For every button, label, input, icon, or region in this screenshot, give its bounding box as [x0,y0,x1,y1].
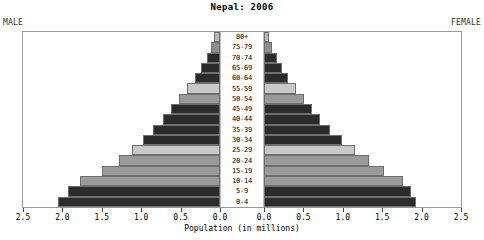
male-bar-cell [23,176,220,186]
male-bar [179,94,220,104]
female-bar-cell [264,104,461,114]
pyramid-row: 70-74 [23,53,461,63]
pyramid-row: 10-14 [23,176,461,186]
male-bar [163,114,220,124]
female-bar [264,42,272,52]
x-axis-tick [181,208,182,212]
pyramid-row: 0-4 [23,197,461,207]
female-side-label: FEMALE [451,18,481,27]
x-axis-tick [102,208,103,212]
male-bar [195,73,220,83]
male-bar-cell [23,135,220,145]
male-bar-cell [23,186,220,196]
x-axis-tick-label: 2.0 [414,213,428,222]
female-bar [264,83,296,93]
age-group-label: 10-14 [220,176,264,186]
male-bar-cell [23,32,220,42]
pyramid-row: 20-24 [23,155,461,165]
male-bar [207,53,220,63]
pyramid-row: 15-19 [23,166,461,176]
x-axis-tick [422,208,423,212]
female-bar [264,125,330,135]
age-group-label: 40-44 [220,114,264,124]
male-bar-cell [23,94,220,104]
female-bar [264,166,384,176]
male-bar [102,166,220,176]
male-bar [153,125,220,135]
female-bar [264,155,369,165]
female-bar-cell [264,125,461,135]
x-axis-tick [461,208,462,212]
male-bar-cell [23,83,220,93]
x-axis-tick-label: 1.0 [134,213,148,222]
female-bar-cell [264,63,461,73]
age-group-label: 55-59 [220,83,264,93]
male-bar-cell [23,104,220,114]
female-bar-cell [264,83,461,93]
x-axis-tick-label: 2.5 [454,213,468,222]
female-bar-cell [264,94,461,104]
male-bar [132,145,220,155]
male-bar [211,42,220,52]
x-axis-tick [141,208,142,212]
male-bar [187,83,220,93]
x-axis-label: Population (in millions) [0,224,484,233]
x-axis-tick [264,208,265,212]
x-axis-tick [220,208,221,212]
x-axis-tick [382,208,383,212]
male-bar [143,135,220,145]
x-axis: 2.52.01.51.00.50.00.00.51.01.52.02.5 [22,208,462,214]
female-bar [264,94,304,104]
male-bar [68,186,220,196]
x-axis-tick-label: 2.0 [55,213,69,222]
pyramid-row: 5-9 [23,186,461,196]
age-group-label: 5-9 [220,186,264,196]
female-bar-cell [264,176,461,186]
x-axis-tick-label: 0.5 [296,213,310,222]
female-bar [264,135,342,145]
age-group-label: 30-34 [220,135,264,145]
x-axis-tick [62,208,63,212]
chart-title: Nepal: 2006 [0,2,484,12]
population-pyramid-chart: Nepal: 2006 MALE FEMALE 80+75-7970-7465-… [0,0,484,240]
male-bar [119,155,220,165]
x-axis-tick [23,208,24,212]
male-bar-cell [23,73,220,83]
pyramid-row: 40-44 [23,114,461,124]
male-bar [80,176,220,186]
male-bar-cell [23,53,220,63]
age-group-label: 45-49 [220,104,264,114]
female-bar-cell [264,42,461,52]
x-axis-tick [343,208,344,212]
male-side-label: MALE [3,18,23,27]
male-bar-cell [23,114,220,124]
female-bar-cell [264,186,461,196]
age-group-label: 70-74 [220,53,264,63]
female-bar-cell [264,114,461,124]
age-group-label: 25-29 [220,145,264,155]
female-bar [264,176,403,186]
male-bar-cell [23,42,220,52]
male-bar [214,32,220,42]
female-bar-cell [264,32,461,42]
pyramid-row: 35-39 [23,125,461,135]
age-group-label: 50-54 [220,94,264,104]
female-bar-cell [264,197,461,207]
male-bar [58,197,220,207]
plot-area: 80+75-7970-7465-6960-6455-5950-5445-4940… [22,31,462,208]
x-axis-tick-label: 2.5 [16,213,30,222]
age-group-label: 80+ [220,32,264,42]
age-group-label: 65-69 [220,63,264,73]
female-bar [264,145,355,155]
pyramid-row: 25-29 [23,145,461,155]
male-bar-cell [23,125,220,135]
x-axis-tick-label: 0.5 [173,213,187,222]
pyramid-row: 75-79 [23,42,461,52]
male-bar-cell [23,155,220,165]
female-bar [264,73,288,83]
age-group-label: 75-79 [220,42,264,52]
pyramid-row: 65-69 [23,63,461,73]
x-axis-tick [303,208,304,212]
pyramid-row: 80+ [23,32,461,42]
female-bar [264,186,411,196]
